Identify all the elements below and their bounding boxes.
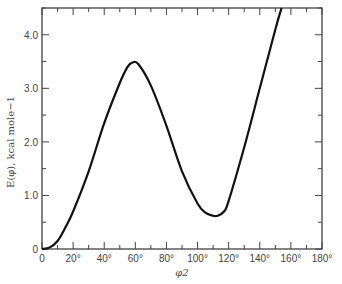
x-tick-label: 40° bbox=[97, 253, 112, 264]
y-tick-label: 0 bbox=[32, 244, 38, 255]
x-tick-label: 20° bbox=[66, 253, 81, 264]
y-tick-label: 2.0 bbox=[24, 137, 38, 148]
plot-frame bbox=[42, 8, 322, 249]
x-tick-label: 0 bbox=[39, 253, 45, 264]
x-axis-label: φ2 bbox=[175, 267, 188, 278]
tick-labels: 020°40°60°80°100°120°140°160°180°01.02.0… bbox=[24, 30, 332, 264]
energy-curve-chart: 020°40°60°80°100°120°140°160°180°01.02.0… bbox=[0, 0, 342, 284]
energy-curve bbox=[42, 8, 282, 249]
y-tick-label: 4.0 bbox=[24, 30, 38, 41]
x-tick-label: 60° bbox=[128, 253, 143, 264]
x-tick-label: 120° bbox=[218, 253, 239, 264]
x-tick-label: 160° bbox=[281, 253, 302, 264]
x-tick-label: 140° bbox=[249, 253, 270, 264]
x-tick-label: 100° bbox=[187, 253, 208, 264]
x-tick-label: 80° bbox=[159, 253, 174, 264]
y-tick-label: 3.0 bbox=[24, 83, 38, 94]
y-axis-label: E(φ), kcal mole−1 bbox=[5, 96, 16, 188]
y-tick-label: 1.0 bbox=[24, 190, 38, 201]
x-tick-label: 180° bbox=[312, 253, 333, 264]
axis-ticks bbox=[42, 8, 322, 249]
